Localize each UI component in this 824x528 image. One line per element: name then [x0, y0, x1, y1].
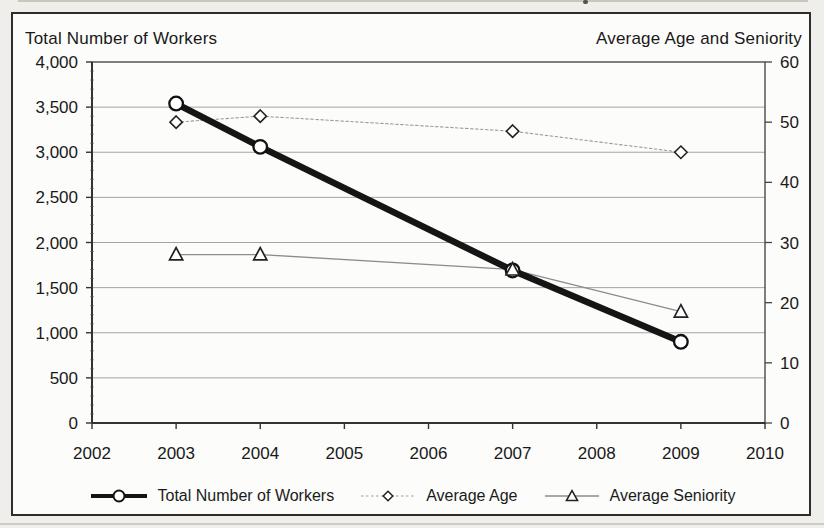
thick-line-circle-marker-icon	[89, 488, 149, 504]
y-right-tick-label: 30	[780, 234, 799, 253]
line-triangle-marker-icon	[543, 488, 601, 504]
series-line-circle	[176, 104, 681, 342]
y-left-tick-label: 500	[50, 369, 78, 388]
dual-axis-line-chart: 4,0003,5003,0002,5002,0001,5001,00050006…	[0, 0, 824, 528]
y-right-tick-label: 60	[780, 53, 799, 72]
y-right-tick-label: 20	[780, 294, 799, 313]
x-axis-tick-label: 2006	[410, 444, 448, 463]
legend-item-average-age: Average Age	[359, 487, 517, 505]
data-point-circle-2004	[253, 140, 267, 154]
y-left-tick-label: 3,000	[35, 143, 78, 162]
legend-label-average-age: Average Age	[426, 487, 517, 505]
y-left-tick-label: 0	[69, 414, 78, 433]
x-axis-tick-label: 2002	[73, 444, 111, 463]
y-left-tick-label: 2,000	[35, 234, 78, 253]
chart-legend: Total Number of Workers Average Age Aver…	[0, 487, 824, 505]
x-axis-tick-label: 2010	[746, 444, 784, 463]
data-point-circle-2009	[674, 335, 688, 349]
x-axis-tick-label: 2004	[241, 444, 279, 463]
data-point-diamond-2007	[506, 125, 518, 137]
y-left-tick-label: 1,500	[35, 279, 78, 298]
x-axis-tick-label: 2009	[662, 444, 700, 463]
x-axis-tick-label: 2005	[325, 444, 363, 463]
y-left-tick-label: 3,500	[35, 98, 78, 117]
y-left-tick-label: 2,500	[35, 188, 78, 207]
data-point-diamond-2004	[254, 110, 266, 122]
data-point-diamond-2003	[170, 116, 182, 128]
y-right-tick-label: 40	[780, 173, 799, 192]
data-point-triangle-2003	[170, 248, 183, 260]
data-point-triangle-2004	[254, 248, 267, 260]
x-axis-tick-label: 2003	[157, 444, 195, 463]
x-axis-tick-label: 2007	[494, 444, 532, 463]
dotted-line-diamond-marker-icon	[359, 488, 417, 504]
y-left-tick-label: 4,000	[35, 53, 78, 72]
page-line-artifact	[0, 523, 824, 525]
x-axis-tick-label: 2008	[578, 444, 616, 463]
y-right-tick-label: 50	[780, 113, 799, 132]
legend-item-total-workers: Total Number of Workers	[89, 487, 335, 505]
data-point-diamond-2009	[675, 146, 687, 158]
y-right-tick-label: 0	[780, 414, 789, 433]
series-line-triangle	[176, 255, 681, 312]
y-right-tick-label: 10	[780, 354, 799, 373]
y-left-tick-label: 1,000	[35, 324, 78, 343]
data-point-circle-2003	[169, 97, 183, 111]
legend-label-average-seniority: Average Seniority	[610, 487, 736, 505]
series-line-diamond	[176, 116, 681, 152]
legend-label-total-workers: Total Number of Workers	[158, 487, 335, 505]
legend-item-average-seniority: Average Seniority	[543, 487, 736, 505]
